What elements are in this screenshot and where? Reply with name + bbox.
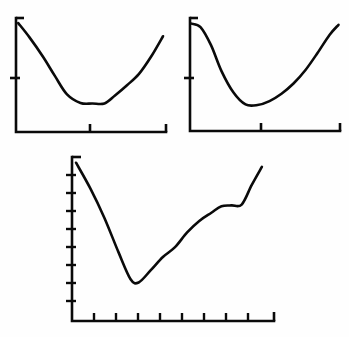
data-curve-top-right xyxy=(192,24,339,106)
chart-panel-bottom-center xyxy=(62,150,284,330)
chart-svg-top-left xyxy=(8,8,174,140)
chart-panel-top-left xyxy=(8,8,174,140)
chart-svg-top-right xyxy=(183,8,347,140)
axes-top-right xyxy=(184,18,340,131)
data-curve-top-left xyxy=(18,23,163,104)
axes-top-left xyxy=(10,18,166,132)
chart-panel-top-right xyxy=(183,8,347,140)
axis-spines-bottom-center xyxy=(72,157,274,321)
axis-spines-top-left xyxy=(16,18,166,132)
data-curve-bottom-center xyxy=(76,163,262,284)
chart-svg-bottom-center xyxy=(62,150,284,330)
figure-canvas xyxy=(0,0,349,337)
axes-bottom-center xyxy=(66,157,274,321)
axis-spines-top-right xyxy=(190,18,340,131)
